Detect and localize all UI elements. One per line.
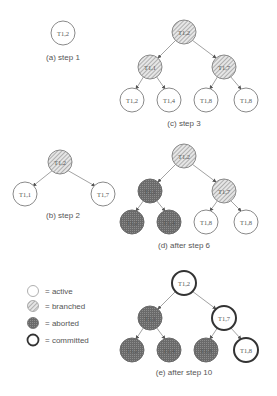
tree-node: T1,8: [234, 338, 258, 362]
node-label: T1,7: [97, 191, 110, 198]
tree-node: T1,1: [13, 182, 37, 206]
node-label: T1,4: [163, 347, 176, 354]
tree-node: T1,4: [157, 210, 181, 234]
tree-node: T1,7: [212, 306, 236, 330]
active-swatch-icon: [28, 286, 39, 297]
tree-node: T1,8: [194, 88, 218, 112]
legend-item-committed: = committed: [28, 335, 89, 346]
tree-node: T1,2: [120, 88, 144, 112]
node-label: T1,8: [200, 347, 212, 354]
panel-caption: (a) step 1: [46, 53, 80, 62]
panel-caption: (e) after step 10: [156, 368, 213, 377]
tree-node: T1,4: [157, 338, 181, 362]
panel-caption: (d) after step 6: [158, 241, 211, 250]
legend-item-aborted: = aborted: [28, 318, 80, 329]
tree-node: T1,2: [120, 210, 144, 234]
node-label: T1,4: [163, 97, 176, 104]
tree-node: T1,2: [48, 150, 72, 174]
branched-swatch-icon: [28, 301, 39, 312]
node-label: T1,8: [240, 97, 252, 104]
panel-a: T1,2 (a) step 1: [46, 21, 80, 62]
node-label: T1,2: [178, 153, 190, 160]
node-label: T1,2: [54, 159, 66, 166]
legend-label: = aborted: [45, 319, 79, 328]
tree-node: T1,2: [172, 271, 196, 295]
node-label: T1,2: [126, 347, 138, 354]
panel-e: T1,2 T1,1 T1,7 T1,2 T1,4 T1,8 T1,8 (e) a…: [120, 271, 258, 377]
tree-node: T1,1: [138, 55, 162, 79]
node-label: T1,8: [240, 219, 252, 226]
node-label: T1,7: [218, 188, 231, 195]
node-label: T1,1: [144, 315, 156, 322]
tree-node: T1,2: [51, 21, 75, 45]
node-label: T1,2: [178, 280, 190, 287]
node-label: T1,2: [57, 30, 69, 37]
tree-node: T1,8: [194, 338, 218, 362]
node-label: T1,8: [200, 97, 212, 104]
legend-item-active: = active: [28, 286, 74, 297]
aborted-swatch-icon: [28, 318, 39, 329]
tree-node: T1,8: [234, 88, 258, 112]
tree-node: T1,7: [91, 182, 115, 206]
legend: = active = branched = aborted = committe…: [28, 286, 89, 346]
tree-node: T1,4: [157, 88, 181, 112]
tree-node: T1,2: [172, 20, 196, 44]
node-label: T1,7: [218, 315, 231, 322]
legend-label: = committed: [45, 336, 89, 345]
legend-label: = branched: [45, 302, 85, 311]
panel-d: T1,2 T1,1 T1,7 T1,2 T1,4 T1,8 T1,8 (d) a…: [120, 144, 258, 250]
node-label: T1,1: [19, 191, 31, 198]
node-label: T1,1: [144, 64, 156, 71]
panel-caption: (c) step 3: [167, 119, 201, 128]
tree-node: T1,1: [138, 179, 162, 203]
node-label: T1,2: [126, 219, 138, 226]
committed-swatch-icon: [28, 335, 39, 346]
tree-node: T1,2: [120, 338, 144, 362]
node-label: T1,8: [240, 347, 252, 354]
legend-label: = active: [45, 287, 73, 296]
panel-c: T1,2 T1,1 T1,7 T1,2 T1,4 T1,8 T1,8 (c) s…: [120, 20, 258, 128]
node-label: T1,2: [126, 97, 138, 104]
tree-node: T1,8: [234, 210, 258, 234]
transaction-tree-diagram: T1,2 (a) step 1 T1,2 T1,1 T1,7 (b) step …: [0, 0, 277, 396]
node-label: T1,4: [163, 219, 176, 226]
tree-node: T1,1: [138, 306, 162, 330]
legend-item-branched: = branched: [28, 301, 86, 312]
node-label: T1,7: [218, 64, 231, 71]
panel-caption: (b) step 2: [46, 211, 80, 220]
tree-node: T1,7: [212, 55, 236, 79]
tree-node: T1,7: [212, 179, 236, 203]
node-label: T1,8: [200, 219, 212, 226]
tree-node: T1,8: [194, 210, 218, 234]
panel-b: T1,2 T1,1 T1,7 (b) step 2: [13, 150, 115, 220]
tree-node: T1,2: [172, 144, 196, 168]
node-label: T1,1: [144, 188, 156, 195]
node-label: T1,2: [178, 29, 190, 36]
